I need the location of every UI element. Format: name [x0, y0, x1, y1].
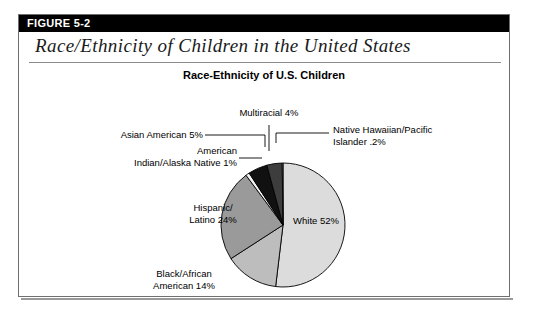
figure-header-bar: FIGURE 5-2	[19, 15, 509, 32]
figure-frame: FIGURE 5-2 Race/Ethnicity of Children in…	[18, 14, 510, 297]
figure-script-title: Race/Ethnicity of Children in the United…	[35, 35, 411, 57]
figure-number-label: FIGURE 5-2	[27, 17, 91, 29]
pie-label-asian-american: Asian American 5%	[75, 129, 203, 141]
pie-label-white: White 52%	[271, 215, 361, 227]
pie-chart	[19, 63, 511, 297]
pie-label-multiracial: Multiracial 4%	[206, 107, 332, 119]
pie-label-native-hawaiian: Native Hawaiian/Pacific Islander .2%	[333, 124, 503, 147]
chart-area: Race-Ethnicity of U.S. Children Multirac…	[19, 63, 509, 297]
leader-line-native-hawaiian	[276, 133, 329, 143]
pie-label-black-african-american: Black/African American 14%	[121, 268, 247, 291]
pie-label-hispanic-latino: Hispanic/ Latino 24%	[171, 202, 255, 225]
pie-label-american-indian: American Indian/Alaska Native 1%	[45, 145, 237, 168]
